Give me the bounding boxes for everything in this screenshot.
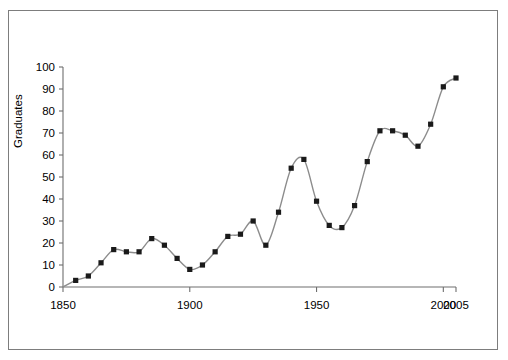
data-point-marker: [136, 249, 141, 254]
data-point-marker: [263, 243, 268, 248]
data-point-marker: [352, 203, 357, 208]
data-point-marker: [73, 278, 78, 283]
data-point-marker: [327, 223, 332, 228]
data-point-marker: [289, 166, 294, 171]
y-axis-ticks: 0102030405060708090100: [36, 61, 63, 293]
x-tick-label: 2005: [443, 299, 469, 311]
data-point-marker: [175, 256, 180, 261]
x-tick-label: 1850: [50, 299, 76, 311]
x-tick-label: 1950: [304, 299, 330, 311]
data-point-marker: [390, 128, 395, 133]
data-point-marker: [225, 234, 230, 239]
data-point-marker: [453, 75, 458, 80]
data-point-marker: [98, 260, 103, 265]
y-tick-label: 60: [42, 149, 55, 161]
x-tick-label: 1900: [177, 299, 203, 311]
y-tick-label: 100: [36, 61, 55, 73]
plot-area: 0102030405060708090100 18501900195020002…: [0, 0, 508, 360]
y-tick-label: 50: [42, 171, 55, 183]
y-tick-label: 20: [42, 237, 55, 249]
data-point-marker: [251, 218, 256, 223]
data-point-marker: [162, 243, 167, 248]
y-tick-label: 40: [42, 193, 55, 205]
data-point-marker: [441, 84, 446, 89]
y-tick-label: 80: [42, 105, 55, 117]
data-point-marker: [365, 159, 370, 164]
data-point-marker: [377, 128, 382, 133]
data-point-marker: [238, 232, 243, 237]
data-point-marker: [314, 199, 319, 204]
data-point-marker: [187, 267, 192, 272]
data-point-marker: [86, 273, 91, 278]
data-point-marker: [301, 157, 306, 162]
data-point-marker: [213, 249, 218, 254]
figure-container: Graduates 0102030405060708090100 1850190…: [0, 0, 508, 360]
x-axis-ticks: 18501900195020002005: [50, 287, 469, 311]
y-tick-label: 30: [42, 215, 55, 227]
data-point-marker: [428, 122, 433, 127]
y-tick-label: 90: [42, 83, 55, 95]
y-tick-label: 70: [42, 127, 55, 139]
data-point-marker: [149, 236, 154, 241]
data-point-marker: [415, 144, 420, 149]
data-point-marker: [339, 225, 344, 230]
data-point-marker: [111, 247, 116, 252]
data-point-marker: [124, 249, 129, 254]
y-tick-label: 0: [49, 281, 55, 293]
data-point-marker: [403, 133, 408, 138]
y-tick-label: 10: [42, 259, 55, 271]
data-point-marker: [200, 262, 205, 267]
data-series-line: [63, 78, 456, 287]
data-point-marker: [276, 210, 281, 215]
line-chart: 0102030405060708090100 18501900195020002…: [0, 0, 508, 360]
